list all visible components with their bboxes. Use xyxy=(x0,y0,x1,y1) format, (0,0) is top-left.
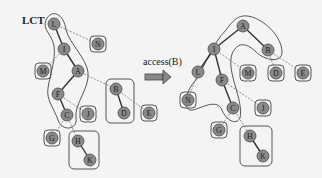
tree-node-d-before: D xyxy=(118,107,130,119)
svg-text:E: E xyxy=(147,109,152,118)
svg-text:A: A xyxy=(240,22,246,31)
tree-node-k-after: K xyxy=(257,150,269,162)
tree-node-b-before: B xyxy=(110,83,122,95)
svg-text:E: E xyxy=(301,69,306,78)
svg-text:C: C xyxy=(230,104,235,113)
svg-text:A: A xyxy=(75,67,81,76)
tree-node-i-after: I xyxy=(208,43,220,55)
tree-node-c-after: C xyxy=(227,102,239,114)
svg-text:K: K xyxy=(87,156,93,165)
tree-node-c-before: C xyxy=(61,109,73,121)
svg-text:B: B xyxy=(113,85,118,94)
tree-node-f-after: F xyxy=(216,74,228,86)
svg-text:H: H xyxy=(75,137,81,146)
tree-node-n-after: N xyxy=(182,94,194,106)
svg-text:G: G xyxy=(49,134,55,143)
svg-text:I: I xyxy=(63,45,66,54)
tree-node-h-after: H xyxy=(244,130,256,142)
svg-text:N: N xyxy=(95,40,101,49)
tree-node-g-after: G xyxy=(213,124,225,136)
svg-text:F: F xyxy=(56,90,61,99)
tree-node-n-before: N xyxy=(92,38,104,50)
svg-text:B: B xyxy=(265,46,270,55)
tree-node-m-after: M xyxy=(242,67,254,79)
tree-node-e-after: E xyxy=(297,67,309,79)
svg-text:M: M xyxy=(244,69,251,78)
svg-text:L: L xyxy=(196,68,201,77)
svg-text:K: K xyxy=(260,152,266,161)
svg-text:C: C xyxy=(64,111,69,120)
tree-node-d-after: D xyxy=(270,67,282,79)
svg-text:N: N xyxy=(185,96,191,105)
svg-text:M: M xyxy=(39,67,46,76)
tree-node-l-after: L xyxy=(192,66,204,78)
svg-text:J: J xyxy=(261,104,264,113)
tree-node-i-before: I xyxy=(58,43,70,55)
tree-node-f-before: F xyxy=(52,88,64,100)
tree-node-h-before: H xyxy=(72,135,84,147)
svg-text:I: I xyxy=(213,45,216,54)
tree-node-k-before: K xyxy=(84,154,96,166)
tree-node-m-before: M xyxy=(37,65,49,77)
tree-node-b-after: B xyxy=(262,44,274,56)
tree-node-e-before: E xyxy=(143,107,155,119)
svg-text:H: H xyxy=(247,132,253,141)
svg-text:G: G xyxy=(216,126,222,135)
tree-node-a-after: A xyxy=(237,20,249,32)
tree-node-j-before: J xyxy=(82,108,94,120)
tree-node-g-before: G xyxy=(46,132,58,144)
transform-arrow-icon xyxy=(145,70,171,84)
svg-text:J: J xyxy=(86,110,89,119)
svg-text:D: D xyxy=(273,69,279,78)
tree-node-a-before: A xyxy=(72,65,84,77)
svg-text:L: L xyxy=(52,20,57,29)
svg-text:F: F xyxy=(220,76,225,85)
svg-text:D: D xyxy=(121,109,127,118)
tree-node-l-before: L xyxy=(48,18,60,30)
lct-diagram: LINMAFBDEJCGHKAIBLMDEFNCJGHK xyxy=(0,0,322,178)
tree-node-j-after: J xyxy=(257,102,269,114)
